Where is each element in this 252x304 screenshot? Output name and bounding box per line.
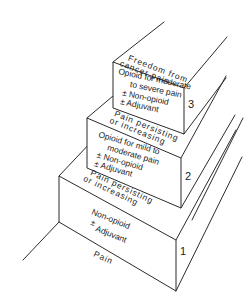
analgesic-ladder-diagram: Freedom from cancer pain Opioid for mode… [0,0,252,304]
step-2-shelf-edge [192,118,243,220]
step-2-bottom-right-edge [181,115,235,208]
step-3-number: 3 [188,98,194,110]
step-2-number: 2 [185,170,191,182]
step-1-top-right-edge [176,130,236,240]
step-1-number: 1 [180,245,186,257]
ground-left-edge [23,222,59,260]
step-2-back-edge [87,96,113,118]
